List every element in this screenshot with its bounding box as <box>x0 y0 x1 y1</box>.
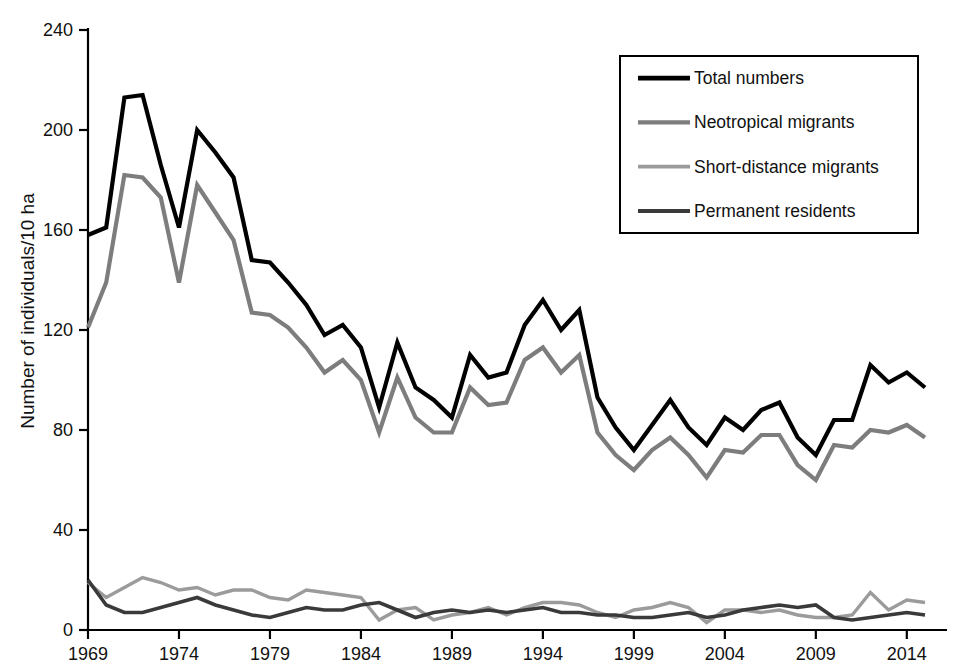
x-axis-tick-label: 1994 <box>523 644 563 664</box>
legend-label: Short-distance migrants <box>694 157 879 177</box>
legend: Total numbersNeotropical migrantsShort-d… <box>620 56 918 233</box>
x-axis: 1969197419791984198919941999200420092014 <box>68 630 947 664</box>
line-chart: Number of individuals/10 ha 040801201602… <box>0 0 975 671</box>
legend-label: Permanent residents <box>694 201 856 221</box>
plot-area: 04080120160200240 1969197419791984198919… <box>0 0 975 671</box>
x-axis-tick-label: 2004 <box>705 644 745 664</box>
y-axis-tick-label: 200 <box>43 120 73 140</box>
y-axis-tick-label: 0 <box>63 620 73 640</box>
x-axis-tick-label: 1989 <box>432 644 472 664</box>
y-axis-tick-label: 160 <box>43 220 73 240</box>
y-axis-tick-label: 80 <box>53 420 73 440</box>
y-axis-tick-label: 240 <box>43 20 73 40</box>
y-axis: 04080120160200240 <box>43 20 88 640</box>
y-axis-tick-label: 120 <box>43 320 73 340</box>
x-axis-tick-label: 1979 <box>250 644 290 664</box>
legend-label: Neotropical migrants <box>694 112 855 132</box>
x-axis-tick-label: 2009 <box>796 644 836 664</box>
series-line <box>88 578 925 623</box>
x-axis-tick-label: 1974 <box>159 644 199 664</box>
x-axis-tick-label: 1984 <box>341 644 381 664</box>
y-axis-tick-label: 40 <box>53 520 73 540</box>
x-axis-tick-label: 1969 <box>68 644 108 664</box>
x-axis-tick-label: 1999 <box>614 644 654 664</box>
legend-label: Total numbers <box>694 68 804 88</box>
x-axis-tick-label: 2014 <box>887 644 927 664</box>
